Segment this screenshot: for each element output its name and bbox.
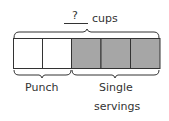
box-5 [131, 39, 161, 69]
single-servings-brace [72, 70, 159, 78]
punch-label: Punch [25, 82, 58, 94]
unknown-value-label: ? [72, 10, 78, 22]
punch-brace [14, 70, 71, 78]
box-3 [72, 39, 102, 69]
tape-diagram [0, 0, 169, 121]
box-4 [101, 39, 131, 69]
box-2 [43, 39, 72, 69]
top-brace [14, 29, 159, 38]
single-servings-label-line1: Single [99, 82, 133, 94]
box-1 [14, 39, 43, 69]
unit-label: cups [92, 13, 118, 25]
single-servings-label-line2: servings [94, 101, 140, 113]
